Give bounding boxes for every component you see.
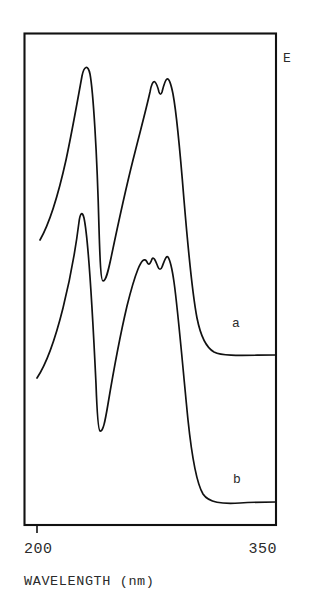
spectrum-plot-svg: E a b 200 350 WAVELENGTH (nm) [0,0,318,603]
curve-b-label: b [233,472,241,487]
x-tick-label-350: 350 [248,541,277,558]
spectrum-figure: E a b 200 350 WAVELENGTH (nm) [0,0,318,603]
y-axis-label: E [283,51,291,66]
curve-a-label: a [232,316,240,331]
x-tick-label-200: 200 [24,541,53,558]
x-axis-label: WAVELENGTH (nm) [24,574,155,589]
